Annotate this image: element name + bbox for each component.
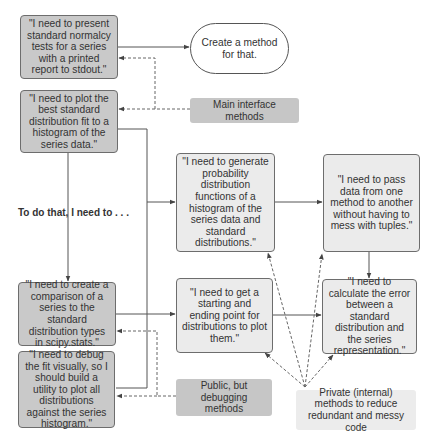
node-generate-pdfs-text: "I need to generate probability distribu… <box>182 156 269 249</box>
legend-main-interface: Main interface methods <box>190 98 299 123</box>
node-pass-data-text: "I need to pass data from one method to … <box>329 174 414 232</box>
node-calculate-error-text: "I need to calculate the error between a… <box>328 276 411 357</box>
node-create-method: Create a method for that. <box>190 23 289 74</box>
edge-private-to-error <box>305 355 333 387</box>
edge-main-label-to-present <box>119 58 190 109</box>
node-start-end-point-text: "I need to get a starting and ending poi… <box>182 287 267 345</box>
caption-to-do-that: To do that, I need to . . . <box>18 207 129 218</box>
node-start-end-point: "I need to get a starting and ending poi… <box>176 278 273 353</box>
node-calculate-error: "I need to calculate the error between a… <box>322 279 417 354</box>
node-generate-pdfs: "I need to generate probability distribu… <box>176 153 275 252</box>
node-present-tests-text: "I need to present standard normalcy tes… <box>26 18 112 76</box>
legend-public-debugging: Public, but debugging methods <box>176 379 272 416</box>
diagram-canvas: "I need to present standard normalcy tes… <box>0 0 434 444</box>
edge-plot-to-debug <box>116 129 147 388</box>
node-plot-best-fit-text: "I need to plot the best standard distri… <box>26 93 112 151</box>
node-create-comparison-text: "I need to create a comparison of a seri… <box>24 279 110 349</box>
legend-private-internal: Private (internal) methods to reduce red… <box>296 390 416 430</box>
edge-private-to-pass <box>305 254 322 387</box>
node-present-tests: "I need to present standard normalcy tes… <box>20 15 118 79</box>
node-create-comparison: "I need to create a comparison of a seri… <box>18 282 116 346</box>
legend-private-internal-text: Private (internal) methods to reduce red… <box>301 387 411 433</box>
node-pass-data: "I need to pass data from one method to … <box>323 154 420 252</box>
node-plot-best-fit: "I need to plot the best standard distri… <box>20 90 118 153</box>
legend-public-debugging-text: Public, but debugging methods <box>181 380 267 415</box>
node-debug-fit-text: "I need to debug the fit visually, so I … <box>24 349 109 430</box>
edge-private-to-pdfs <box>268 253 305 387</box>
node-create-method-text: Create a method for that. <box>196 37 283 60</box>
node-debug-fit: "I need to debug the fit visually, so I … <box>18 351 115 428</box>
legend-main-interface-text: Main interface methods <box>195 99 294 122</box>
